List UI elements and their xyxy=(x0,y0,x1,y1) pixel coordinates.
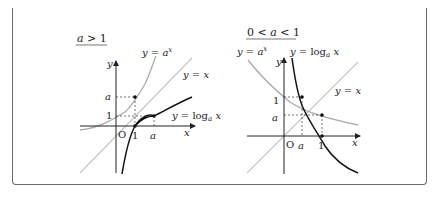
point-1-a xyxy=(133,95,137,99)
origin-right: O xyxy=(286,139,294,150)
tick-y-1-right: 1 xyxy=(273,95,279,106)
point-1-0-right xyxy=(320,134,324,138)
x-axis-label-left: x xyxy=(184,127,190,138)
identity-label-right: y = x xyxy=(334,85,361,96)
graph-a-greater-than-1: a > 1 y x O a 1 1 a y = ax y = x y = log… xyxy=(76,32,221,174)
graph-a-between-0-and-1: 0 < a < 1 y x O 1 a a 1 y = ax y = loga … xyxy=(236,26,361,174)
tick-x-1-right: 1 xyxy=(318,140,324,151)
tick-x-1-left: 1 xyxy=(132,130,138,141)
tick-x-a-left: a xyxy=(150,130,156,141)
log-label-left: y = loga x xyxy=(171,110,221,123)
y-axis-label-right: y xyxy=(275,56,282,67)
title-left: a > 1 xyxy=(77,32,107,45)
point-1-a-right xyxy=(320,113,324,117)
point-1-0 xyxy=(133,124,137,128)
exp-label-left: y = ax xyxy=(141,46,172,58)
tick-y-a-right: a xyxy=(272,112,278,123)
title-right: 0 < a < 1 xyxy=(247,26,300,39)
identity-label-left: y = x xyxy=(182,69,209,80)
log-label-right: y = loga x xyxy=(289,46,339,59)
origin-left: O xyxy=(118,129,126,140)
point-a-1-right xyxy=(300,95,304,99)
tick-x-a-right: a xyxy=(298,140,304,151)
tick-y-a-left: a xyxy=(105,91,111,102)
log-curve-right xyxy=(292,58,358,173)
tick-y-1-left: 1 xyxy=(106,110,112,121)
log-exp-graphs: a > 1 y x O a 1 1 a y = ax y = x y = log… xyxy=(0,0,441,197)
y-axis-label-left: y xyxy=(106,58,113,69)
point-a-1 xyxy=(152,114,156,118)
x-axis-label-right: x xyxy=(352,137,358,148)
exp-label-right: y = ax xyxy=(236,45,267,57)
